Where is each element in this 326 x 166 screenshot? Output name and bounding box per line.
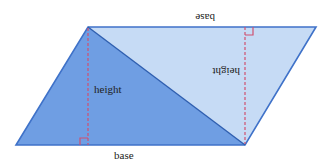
- parallelogram-diagram: height height base base: [0, 0, 326, 166]
- right-height-label: height: [213, 66, 241, 78]
- bottom-base-label: base: [114, 149, 134, 161]
- top-base-label: base: [195, 12, 215, 24]
- left-height-label: height: [94, 83, 122, 95]
